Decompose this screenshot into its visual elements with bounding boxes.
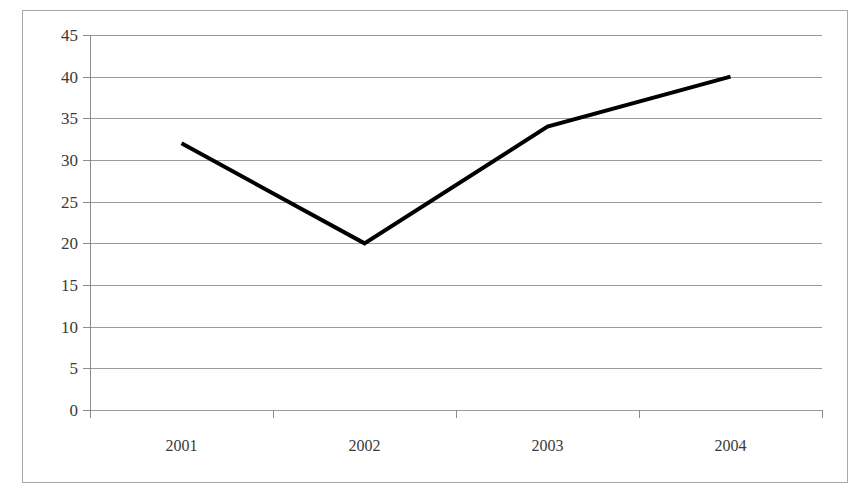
gridline-10 <box>90 327 822 328</box>
y-tick-mark-35 <box>83 118 90 119</box>
x-tick-label-2001: 2001 <box>122 438 242 454</box>
gridline-35 <box>90 118 822 119</box>
x-tick-mark-1 <box>273 410 274 418</box>
y-tick-label-15: 15 <box>38 277 78 294</box>
chart-figure: 45 40 35 30 25 20 15 10 5 0 2001 2002 20… <box>0 0 865 494</box>
y-tick-mark-40 <box>83 77 90 78</box>
y-axis-tick-labels: 45 40 35 30 25 20 15 10 5 0 <box>32 0 78 494</box>
x-tick-label-2002: 2002 <box>305 438 425 454</box>
y-tick-mark-5 <box>83 368 90 369</box>
y-tick-label-40: 40 <box>38 69 78 86</box>
y-tick-label-25: 25 <box>38 194 78 211</box>
y-tick-label-45: 45 <box>38 27 78 44</box>
y-tick-mark-10 <box>83 327 90 328</box>
y-tick-mark-30 <box>83 160 90 161</box>
y-tick-mark-45 <box>83 35 90 36</box>
gridline-15 <box>90 285 822 286</box>
y-tick-label-35: 35 <box>38 110 78 127</box>
y-tick-mark-15 <box>83 285 90 286</box>
gridline-40 <box>90 77 822 78</box>
gridline-30 <box>90 160 822 161</box>
y-tick-mark-20 <box>83 243 90 244</box>
gridline-20 <box>90 243 822 244</box>
y-tick-label-30: 30 <box>38 152 78 169</box>
x-tick-mark-3 <box>639 410 640 418</box>
y-tick-label-20: 20 <box>38 235 78 252</box>
plot-area <box>90 35 822 410</box>
x-tick-mark-4 <box>822 410 823 418</box>
x-tick-label-2004: 2004 <box>671 438 791 454</box>
y-axis-line <box>90 35 91 411</box>
x-tick-mark-0 <box>90 410 91 418</box>
gridline-25 <box>90 202 822 203</box>
gridline-5 <box>90 368 822 369</box>
y-tick-label-10: 10 <box>38 319 78 336</box>
gridline-45 <box>90 35 822 36</box>
y-tick-label-5: 5 <box>38 360 78 377</box>
x-tick-label-2003: 2003 <box>488 438 608 454</box>
y-tick-mark-25 <box>83 202 90 203</box>
y-tick-mark-0 <box>83 410 90 411</box>
x-tick-mark-2 <box>456 410 457 418</box>
y-tick-label-0: 0 <box>38 402 78 419</box>
